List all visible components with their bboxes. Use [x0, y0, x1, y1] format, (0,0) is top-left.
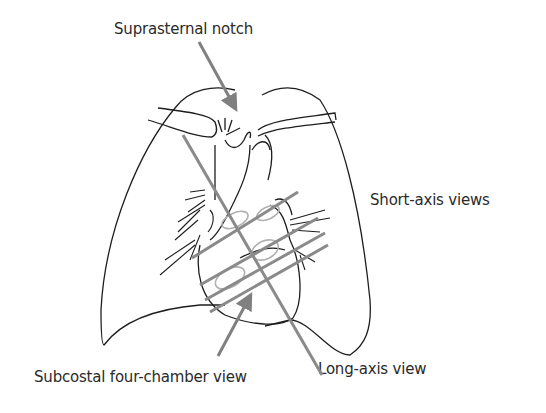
great-vessels [215, 118, 272, 210]
short-axis-plane-lines [192, 192, 328, 312]
long-axis-line [183, 135, 322, 375]
heart-lungs-diagram [0, 0, 546, 413]
suprasternal-arrow [199, 42, 233, 104]
left-pulmonary-branches [160, 190, 213, 275]
subcostal-arrow [218, 300, 248, 356]
